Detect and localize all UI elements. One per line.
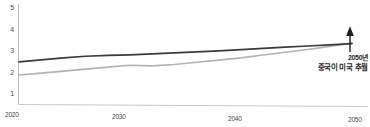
line-chart: 5 4 3 2 1 2020 2030 2040 2050 2050년 중국이 … (0, 0, 370, 127)
x-axis-line (18, 105, 368, 107)
callout-year: 2050년 (318, 54, 368, 63)
x-tick-label-2050: 2050 (348, 117, 362, 124)
y-tick-label-5: 5 (2, 4, 14, 11)
y-tick-label-1: 1 (2, 90, 14, 97)
x-tick-label-2040: 2040 (228, 116, 242, 123)
crossover-callout: 2050년 중국이 미국 추월 (318, 54, 368, 72)
x-tick-label-2020: 2020 (5, 112, 19, 119)
y-tick-label-3: 3 (2, 47, 14, 54)
x-tick-label-2030: 2030 (112, 114, 126, 121)
series-line-united-states (19, 44, 352, 62)
series-line-china (19, 43, 352, 75)
plot-area (0, 0, 370, 127)
y-tick-label-4: 4 (2, 26, 14, 33)
callout-text: 중국이 미국 추월 (318, 63, 368, 72)
y-tick-label-2: 2 (2, 69, 14, 76)
up-arrow-icon (346, 26, 354, 52)
